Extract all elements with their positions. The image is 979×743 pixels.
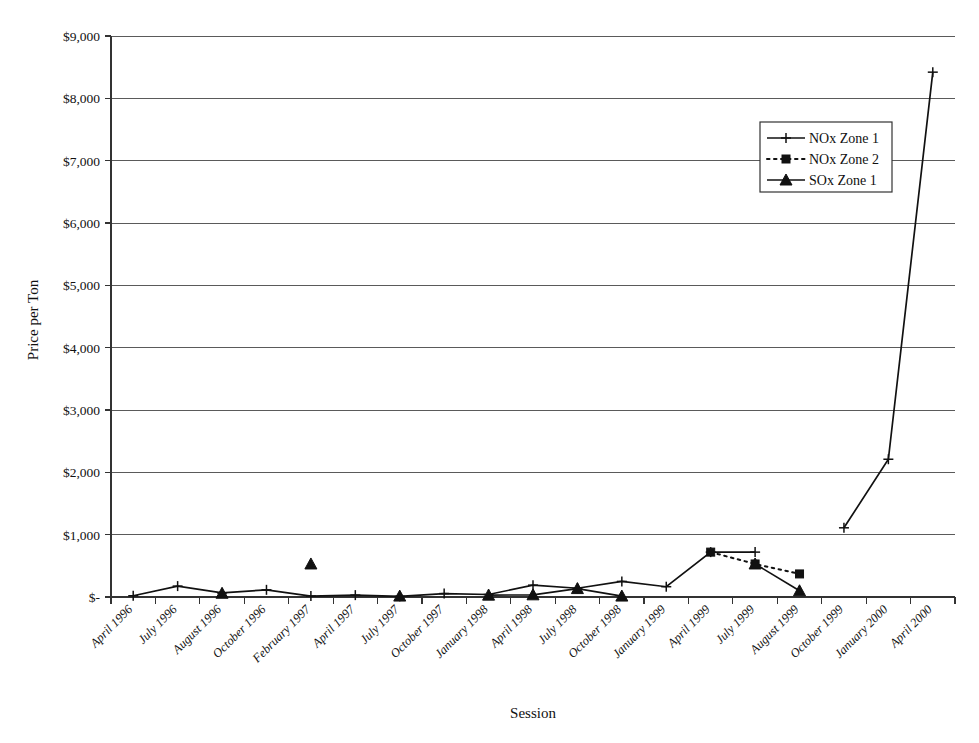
data-point-marker-plus [617,576,627,586]
x-tick-label: July 1999 [713,602,758,647]
data-point-marker-triangle [305,558,317,569]
data-point-marker-plus [261,585,271,595]
x-tick-label: July 1996 [135,602,180,647]
data-point-marker-plus [750,547,760,557]
data-point-marker-square [782,155,790,163]
data-point-marker-plus [306,591,316,601]
x-tick-label: April 2000 [886,602,935,651]
y-tick-label: $9,000 [63,29,100,44]
legend-label: SOx Zone 1 [809,173,877,188]
x-axis-title: Session [510,705,556,721]
data-point-marker-plus [883,454,893,464]
series-line [755,564,799,591]
y-tick-marks-group [105,36,111,597]
axis-lines-group [111,36,955,597]
data-point-marker-plus [173,581,183,591]
y-tick-label: $6,000 [63,216,100,231]
y-tick-label: $- [89,590,101,605]
legend-label: NOx Zone 1 [809,131,879,146]
y-tick-labels-group: $-$1,000$2,000$3,000$4,000$5,000$6,000$7… [63,29,101,605]
data-point-marker-square [796,570,804,578]
y-tick-label: $5,000 [63,278,100,293]
x-tick-label: July 1998 [535,602,580,647]
y-tick-label: $8,000 [63,91,100,106]
x-tick-label: July 1997 [357,602,402,647]
data-point-marker-plus [128,591,138,601]
y-tick-label: $7,000 [63,154,100,169]
gridlines-group [111,36,955,597]
data-point-marker-plus [350,590,360,600]
chart-container: $-$1,000$2,000$3,000$4,000$5,000$6,000$7… [0,0,979,743]
data-point-marker-square [707,548,715,556]
x-tick-label: April 1998 [486,602,535,651]
x-tick-label: April 1996 [87,602,136,651]
y-axis-title: Price per Ton [25,279,41,360]
x-tick-label: April 1997 [309,602,358,651]
data-point-marker-plus [839,523,849,533]
line-chart: $-$1,000$2,000$3,000$4,000$5,000$6,000$7… [0,0,979,743]
y-tick-label: $2,000 [63,465,100,480]
data-point-marker-plus [928,67,938,77]
data-point-marker-triangle [794,585,806,596]
y-tick-label: $3,000 [63,403,100,418]
x-tick-labels-group: April 1996July 1996August 1996October 19… [87,602,936,666]
x-tick-label: April 1999 [664,602,713,651]
legend: NOx Zone 1NOx Zone 2SOx Zone 1 [760,122,892,192]
y-tick-label: $4,000 [63,341,100,356]
y-tick-label: $1,000 [63,528,100,543]
legend-label: NOx Zone 2 [809,152,879,167]
